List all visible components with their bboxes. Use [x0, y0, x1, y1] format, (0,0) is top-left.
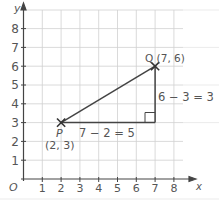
origin-label: O	[9, 181, 18, 194]
point-p-coords: (2, 3)	[45, 139, 75, 152]
svg-text:3: 3	[76, 182, 83, 195]
svg-text:2: 2	[58, 182, 65, 195]
svg-text:4: 4	[11, 97, 19, 111]
svg-text:1: 1	[11, 154, 19, 168]
svg-text:8: 8	[11, 22, 19, 36]
svg-text:6: 6	[133, 182, 140, 195]
svg-text:2: 2	[11, 135, 19, 149]
x-axis-arrow-icon	[189, 177, 196, 182]
coordinate-diagram: y x O 1 2 3 4 5 6 7 8 1 2 3 4 5 6 7 8 P	[0, 0, 219, 210]
right-triangle	[61, 66, 155, 122]
svg-text:3: 3	[11, 116, 19, 130]
hypotenuse-pq	[61, 66, 155, 122]
svg-text:7: 7	[152, 182, 159, 195]
page-lines	[0, 10, 219, 199]
vertical-difference-label: 6 − 3 = 3	[158, 90, 214, 104]
svg-text:5: 5	[114, 182, 121, 195]
svg-text:1: 1	[39, 182, 46, 195]
right-angle-marker-icon	[145, 113, 155, 123]
svg-text:4: 4	[95, 182, 102, 195]
svg-text:6: 6	[11, 60, 19, 74]
x-axis-label: x	[195, 181, 202, 192]
x-tick-labels: 1 2 3 4 5 6 7 8	[39, 182, 178, 195]
horizontal-difference-label: 7 − 2 = 5	[79, 126, 135, 140]
svg-text:5: 5	[11, 78, 19, 92]
svg-text:8: 8	[170, 182, 177, 195]
y-axis-arrow-icon	[21, 3, 26, 10]
y-axis-label: y	[13, 2, 21, 15]
svg-text:7: 7	[11, 41, 19, 55]
point-q-label: Q (7, 6)	[145, 52, 185, 64]
y-tick-labels: 1 2 3 4 5 6 7 8	[11, 22, 19, 168]
